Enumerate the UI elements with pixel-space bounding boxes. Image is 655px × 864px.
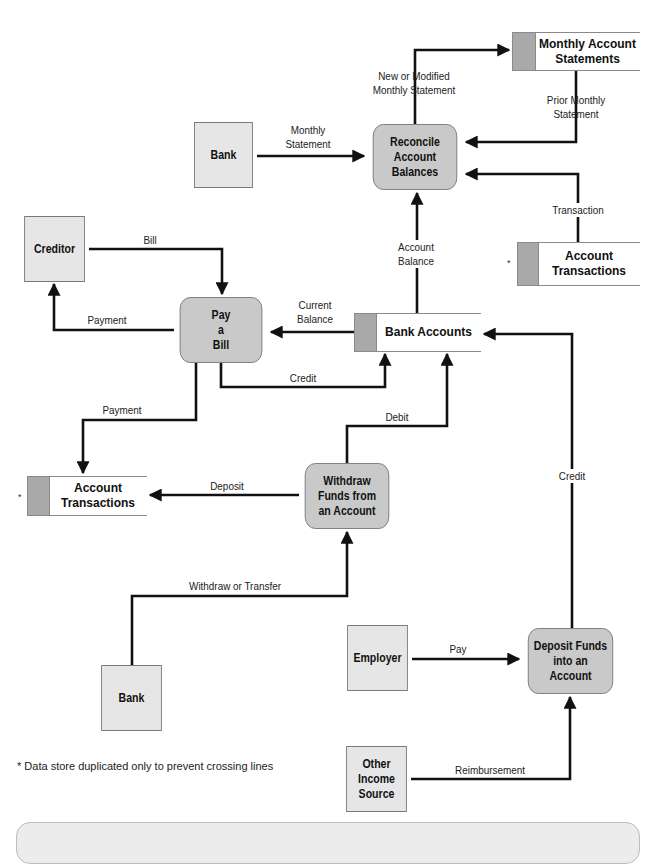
store-label: Monthly Account Statements <box>535 33 640 70</box>
store-tab <box>28 477 50 515</box>
data-store-account-transactions-right[interactable]: Account Transactions <box>517 242 640 286</box>
flow-label-account-balance: Account Balance <box>398 240 434 268</box>
duplicate-marker: * <box>507 258 511 268</box>
data-store-account-transactions-left[interactable]: Account Transactions <box>27 476 147 516</box>
flow-debit <box>347 354 447 463</box>
footnote: * Data store duplicated only to prevent … <box>17 760 273 772</box>
flow-label-transaction: Transaction <box>552 203 603 217</box>
flow-label-credit-deposit: Credit <box>559 469 585 483</box>
entity-creditor[interactable]: Creditor <box>24 216 85 282</box>
store-tab <box>513 33 536 70</box>
process-reconcile[interactable]: Reconcile Account Balances <box>373 124 457 190</box>
flow-label-debit: Debit <box>385 410 408 424</box>
flow-label-prior-monthly: Prior Monthly Statement <box>547 93 605 121</box>
flow-label-payment-creditor: Payment <box>87 313 126 327</box>
store-label: Bank Accounts <box>376 314 481 351</box>
entity-bank-bottom[interactable]: Bank <box>101 665 162 731</box>
process-withdraw[interactable]: Withdraw Funds from an Account <box>305 463 389 529</box>
flow-label-payment-trans: Payment <box>102 403 141 417</box>
store-tab <box>355 314 377 351</box>
flow-payment-trans <box>83 363 196 473</box>
data-store-bank-accounts[interactable]: Bank Accounts <box>354 313 481 352</box>
store-label: Account Transactions <box>49 477 147 515</box>
store-tab <box>518 243 539 285</box>
entity-employer[interactable]: Employer <box>347 625 408 691</box>
flow-label-new-modified: New or Modified Monthly Statement <box>373 69 456 97</box>
flow-label-credit-paybill: Credit <box>290 371 316 385</box>
flow-label-withdraw-transfer: Withdraw or Transfer <box>189 579 281 593</box>
flow-label-reimbursement: Reimbursement <box>455 763 525 777</box>
flow-label-current-balance: Current Balance <box>297 298 333 326</box>
flow-label-bill: Bill <box>143 233 156 247</box>
store-label: Account Transactions <box>538 243 640 285</box>
flow-withdraw-transfer <box>132 532 347 665</box>
flow-bill <box>89 249 222 294</box>
data-store-monthly-statements[interactable]: Monthly Account Statements <box>512 32 640 71</box>
entity-other-income[interactable]: Other Income Source <box>346 746 407 812</box>
process-deposit[interactable]: Deposit Funds into an Account <box>528 628 613 694</box>
process-pay-bill[interactable]: Pay a Bill <box>180 297 263 363</box>
bottom-panel <box>16 822 640 864</box>
duplicate-marker: * <box>18 492 22 502</box>
flow-label-deposit: Deposit <box>210 479 244 493</box>
entity-bank-top[interactable]: Bank <box>194 122 253 188</box>
flow-label-pay: Pay <box>449 642 466 656</box>
flow-label-monthly-statement: Monthly Statement <box>285 123 330 151</box>
